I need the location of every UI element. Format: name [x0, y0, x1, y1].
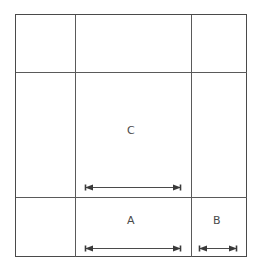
dimension-arrow-c — [85, 185, 181, 191]
grid-diagram-svg — [0, 0, 262, 278]
region-label-a: A — [127, 214, 135, 227]
region-label-b: B — [213, 214, 221, 227]
dimension-arrow-a — [85, 246, 181, 252]
region-label-c: C — [127, 124, 135, 137]
diagram-canvas: C A B — [0, 0, 262, 278]
dimension-arrow-b — [199, 246, 237, 252]
